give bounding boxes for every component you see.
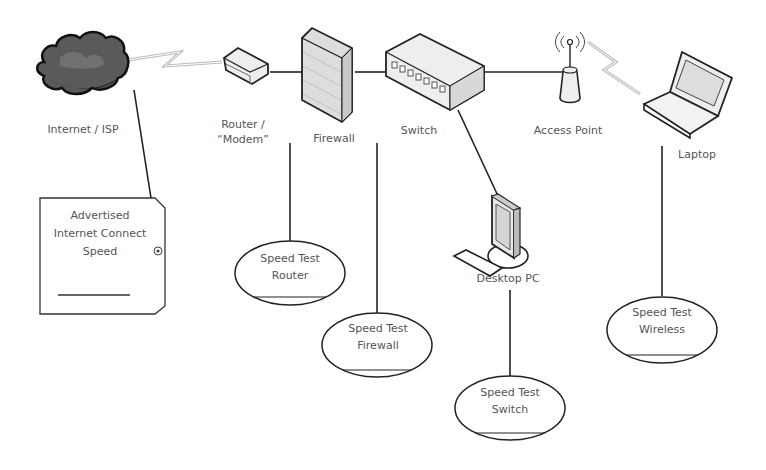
desktop-pc-label: Desktop PC (476, 272, 539, 286)
speed-firewall-line1: Speed Test (348, 321, 408, 336)
speed-switch-line2: Switch (492, 402, 528, 417)
router-label-line2: “Modem” (217, 133, 269, 147)
desktop-pc-icon (454, 194, 528, 276)
speed-wireless-line1: Speed Test (632, 305, 692, 320)
advertised-label-line3: Speed (83, 244, 117, 259)
laptop-label: Laptop (678, 148, 716, 162)
speed-firewall-line2: Firewall (357, 338, 398, 353)
internet-label: Internet / ISP (47, 123, 118, 137)
speed-router-line1: Speed Test (260, 251, 320, 266)
laptop-icon (644, 52, 732, 138)
firewall-label: Firewall (313, 132, 354, 146)
router-icon (224, 48, 268, 84)
wireless-link-ap-laptop (588, 42, 640, 94)
switch-icon (386, 34, 484, 110)
speed-wireless-line2: Wireless (639, 322, 685, 337)
wireless-link-isp-router (128, 52, 222, 66)
speed-switch-line1: Speed Test (480, 385, 540, 400)
advertised-label-line2: Internet Connect (54, 226, 147, 241)
firewall-icon (302, 28, 352, 122)
connector-advertised (134, 90, 151, 198)
access-point-label: Access Point (534, 124, 602, 138)
speed-router-line2: Router (272, 268, 308, 283)
access-point-icon (556, 32, 585, 103)
link-switch-desktop (458, 110, 498, 196)
cloud-icon (37, 32, 128, 94)
switch-label: Switch (401, 124, 437, 138)
advertised-label-line1: Advertised (71, 208, 130, 223)
router-label-line1: Router / (221, 118, 265, 132)
